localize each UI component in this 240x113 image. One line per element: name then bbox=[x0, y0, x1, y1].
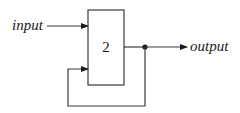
feedback-path bbox=[68, 47, 145, 106]
input-label: input bbox=[12, 17, 44, 33]
output-label: output bbox=[190, 38, 229, 54]
block-diagram: input 2 output bbox=[0, 0, 240, 113]
block-label: 2 bbox=[102, 39, 110, 55]
